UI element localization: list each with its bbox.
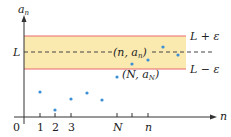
tick-label-2: 2 [52, 121, 59, 134]
tick-label-1: 1 [37, 121, 44, 134]
point-n-plus-1 [161, 45, 164, 48]
point-n-label: (n, an) [113, 46, 147, 60]
point-N-label: (N, aN) [122, 68, 159, 82]
origin-label: 0 [13, 121, 20, 134]
point-1 [38, 90, 41, 93]
x-axis-label: n [220, 110, 227, 123]
point-n [146, 58, 149, 61]
lower-band-label: L − ε [189, 63, 220, 76]
point-3 [69, 97, 72, 100]
tick-label-n: n [145, 121, 152, 134]
point-n-plus-2 [176, 53, 179, 56]
sequence-limit-diagram: 0 1 2 3 N n n an L L + ε L − ε (n, an) (… [0, 0, 231, 137]
point-N [115, 75, 118, 78]
upper-band-label: L + ε [189, 30, 220, 43]
point-5 [100, 98, 103, 101]
limit-label: L [12, 46, 20, 59]
x-axis-arrow-icon [210, 115, 217, 120]
tick-label-3: 3 [68, 121, 75, 134]
y-axis-label: an [18, 3, 30, 17]
tick-label-N: N [112, 121, 123, 134]
x-ticks [40, 113, 148, 117]
point-N-plus-1 [130, 62, 133, 65]
point-2 [53, 108, 56, 111]
point-4 [85, 91, 88, 94]
